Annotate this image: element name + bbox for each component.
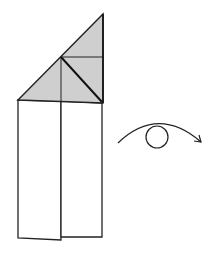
right-white-panel xyxy=(61,101,102,237)
paper-model xyxy=(18,14,103,240)
origami-diagram xyxy=(0,0,213,254)
turn-over-circle xyxy=(146,126,168,148)
turn-over-icon xyxy=(118,124,201,148)
left-white-panel xyxy=(18,100,61,240)
